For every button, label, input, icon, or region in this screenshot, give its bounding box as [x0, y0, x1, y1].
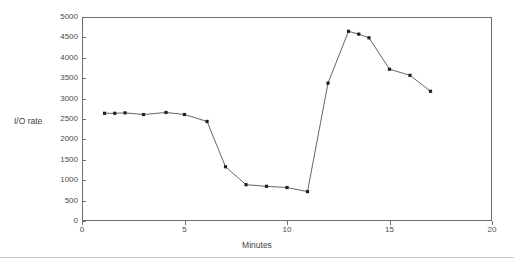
y-tick-label: 3000: [44, 95, 78, 103]
data-point-marker: [244, 183, 247, 186]
data-point-marker: [164, 111, 167, 114]
data-point-marker: [347, 30, 350, 33]
x-tick-mark: [492, 221, 493, 225]
y-tick-label: 500: [44, 197, 78, 205]
data-point-marker: [142, 113, 145, 116]
series-line: [105, 31, 431, 191]
y-tick-mark: [82, 37, 86, 38]
y-tick-label: 1500: [44, 156, 78, 164]
y-tick-label: 0: [44, 217, 78, 225]
y-tick-mark: [82, 160, 86, 161]
bottom-separator-rule: [0, 257, 514, 258]
x-tick-mark: [287, 221, 288, 225]
x-tick-label: 20: [477, 226, 507, 234]
x-tick-mark: [82, 221, 83, 225]
y-tick-mark: [82, 201, 86, 202]
y-tick-label: 4000: [44, 54, 78, 62]
y-tick-label: 3500: [44, 74, 78, 82]
x-tick-label: 15: [375, 226, 405, 234]
data-point-marker: [113, 112, 116, 115]
data-point-marker: [205, 120, 208, 123]
chart-figure: 0500100015002000250030003500400045005000…: [0, 0, 514, 264]
data-point-marker: [306, 190, 309, 193]
y-tick-mark: [82, 58, 86, 59]
x-tick-label: 10: [272, 226, 302, 234]
x-axis-title: Minutes: [0, 241, 514, 250]
y-tick-mark: [82, 180, 86, 181]
y-tick-mark: [82, 78, 86, 79]
y-tick-label: 4500: [44, 33, 78, 41]
y-axis-tick-labels: 0500100015002000250030003500400045005000: [40, 0, 78, 264]
y-tick-label: 5000: [44, 13, 78, 21]
y-tick-label: 1000: [44, 176, 78, 184]
data-point-marker: [357, 33, 360, 36]
data-point-marker: [265, 185, 268, 188]
data-point-marker: [367, 36, 370, 39]
x-tick-label: 5: [170, 226, 200, 234]
data-point-marker: [285, 186, 288, 189]
data-point-marker: [123, 111, 126, 114]
data-point-marker: [408, 74, 411, 77]
x-tick-label: 0: [67, 226, 97, 234]
y-tick-mark: [82, 119, 86, 120]
series-markers: [103, 30, 432, 194]
y-tick-mark: [82, 139, 86, 140]
y-tick-label: 2000: [44, 135, 78, 143]
x-tick-mark: [390, 221, 391, 225]
data-point-marker: [388, 68, 391, 71]
series-plot: [82, 17, 492, 221]
y-tick-mark: [82, 99, 86, 100]
data-point-marker: [224, 165, 227, 168]
data-point-marker: [326, 82, 329, 85]
data-point-marker: [103, 112, 106, 115]
data-point-marker: [429, 90, 432, 93]
y-axis-title: I/O rate: [14, 117, 42, 126]
x-tick-mark: [185, 221, 186, 225]
y-tick-mark: [82, 17, 86, 18]
data-point-marker: [183, 113, 186, 116]
y-tick-label: 2500: [44, 115, 78, 123]
